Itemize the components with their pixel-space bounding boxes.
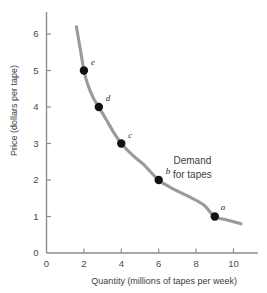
x-tick-label: 2 xyxy=(81,258,86,269)
x-tick-label: 4 xyxy=(119,258,124,269)
y-tick-label: 4 xyxy=(33,101,38,112)
y-tick-label: 6 xyxy=(33,28,38,39)
data-points-group xyxy=(80,66,219,220)
chart-canvas: 0123456 0246810 abcde Demandfor tapes Qu… xyxy=(0,0,267,293)
curve-annotation-line-2: for tapes xyxy=(173,169,212,180)
curve-annotation-line-1: Demand xyxy=(173,155,211,166)
y-tick-label: 0 xyxy=(33,247,38,258)
demand-curve-line xyxy=(76,27,241,224)
y-axis-title: Price (dollars per tape) xyxy=(9,65,19,156)
data-point-d xyxy=(95,103,103,111)
x-tick-label: 6 xyxy=(156,258,161,269)
point-label-b: b xyxy=(166,166,171,176)
y-tick-label: 5 xyxy=(33,65,38,76)
data-point-c xyxy=(117,139,125,147)
data-point-b xyxy=(155,176,163,184)
y-tick-label: 3 xyxy=(33,138,38,149)
x-axis-title: Quantity (millions of tapes per week) xyxy=(91,276,237,286)
point-label-a: a xyxy=(221,202,226,212)
data-point-a xyxy=(211,212,219,220)
x-axis-ticks: 0246810 xyxy=(44,249,239,270)
x-tick-label: 0 xyxy=(44,258,49,269)
point-label-c: c xyxy=(128,130,132,140)
y-tick-label: 1 xyxy=(33,211,38,222)
data-point-labels-group: abcde xyxy=(91,57,226,212)
demand-curve-chart: 0123456 0246810 abcde Demandfor tapes Qu… xyxy=(0,0,267,293)
y-tick-label: 2 xyxy=(33,174,38,185)
point-label-d: d xyxy=(106,93,111,103)
data-point-e xyxy=(80,66,88,74)
demand-curve-series xyxy=(76,27,241,224)
axes-group xyxy=(47,12,258,253)
x-tick-label: 8 xyxy=(193,258,198,269)
curve-annotation-group: Demandfor tapes xyxy=(173,155,212,181)
x-tick-label: 10 xyxy=(228,258,239,269)
y-axis-ticks: 0123456 xyxy=(33,28,51,258)
point-label-e: e xyxy=(91,57,95,67)
